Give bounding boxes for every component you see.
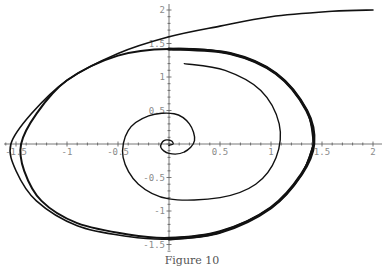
y-tick-label: 1 — [160, 72, 165, 82]
outer-trajectory — [10, 10, 373, 239]
tick-labels: -1.5-1-0.50.511.52-1.5-1-0.50.511.52 — [5, 5, 376, 250]
x-tick-label: 1 — [268, 147, 273, 157]
y-tick-label: -1.5 — [143, 240, 165, 250]
y-tick-label: -0.5 — [143, 173, 165, 183]
x-tick-label: 1.5 — [314, 147, 330, 157]
x-tick-label: 2 — [370, 147, 375, 157]
x-tick-label: -1.5 — [5, 147, 27, 157]
x-tick-label: -1 — [62, 147, 73, 157]
y-tick-label: -1 — [154, 206, 165, 216]
x-tick-label: -0.5 — [107, 147, 129, 157]
y-tick-label: 2 — [160, 5, 165, 15]
x-tick-label: 0.5 — [212, 147, 228, 157]
axes — [4, 4, 382, 251]
figure-caption: Figure 10 — [0, 254, 384, 267]
curves — [10, 10, 373, 239]
